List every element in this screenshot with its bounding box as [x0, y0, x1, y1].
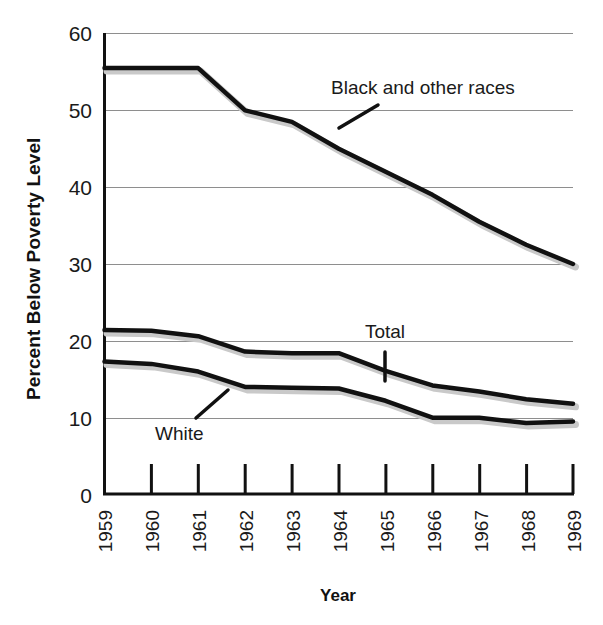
ytick-label-60: 60 — [69, 22, 92, 45]
ytick-label-0: 0 — [80, 484, 92, 507]
xtick-label-1963: 1963 — [283, 510, 304, 552]
xtick-label-1965: 1965 — [377, 510, 398, 552]
poverty-line-chart: 60 50 40 30 20 10 0 Percent Below Povert… — [0, 0, 603, 625]
y-tick-labels: 60 50 40 30 20 10 0 — [69, 22, 92, 507]
xtick-label-1961: 1961 — [189, 510, 210, 552]
xtick-label-1962: 1962 — [236, 510, 257, 552]
ytick-label-10: 10 — [69, 407, 92, 430]
chart-canvas: 60 50 40 30 20 10 0 Percent Below Povert… — [0, 0, 603, 625]
xtick-label-1959: 1959 — [95, 510, 116, 552]
series-shadows — [107, 71, 576, 426]
xtick-label-1966: 1966 — [424, 510, 445, 552]
series-shadow-black-and-other-races — [107, 71, 576, 267]
xtick-label-1969: 1969 — [564, 510, 585, 552]
xtick-label-1964: 1964 — [330, 510, 351, 553]
ytick-label-20: 20 — [69, 330, 92, 353]
annotation-white: White — [155, 423, 204, 444]
ytick-label-30: 30 — [69, 253, 92, 276]
annotation-black-and-other-races: Black and other races — [331, 77, 515, 98]
ytick-label-50: 50 — [69, 99, 92, 122]
annotation-leaders — [196, 105, 385, 418]
xtick-label-1968: 1968 — [518, 510, 539, 552]
x-axis-ticks — [105, 464, 574, 494]
leader-line-black-and-other-races — [339, 105, 378, 128]
annotation-total: Total — [365, 321, 405, 342]
xtick-label-1960: 1960 — [142, 510, 163, 552]
y-axis-title: Percent Below Poverty Level — [23, 138, 44, 400]
series-lines — [105, 68, 574, 423]
ytick-label-40: 40 — [69, 176, 92, 199]
x-tick-labels: 1959 1960 1961 1962 1963 1964 1965 1966 … — [95, 510, 585, 553]
leader-line-white — [196, 390, 228, 418]
x-axis-title: Year — [320, 586, 356, 605]
xtick-label-1967: 1967 — [471, 510, 492, 552]
